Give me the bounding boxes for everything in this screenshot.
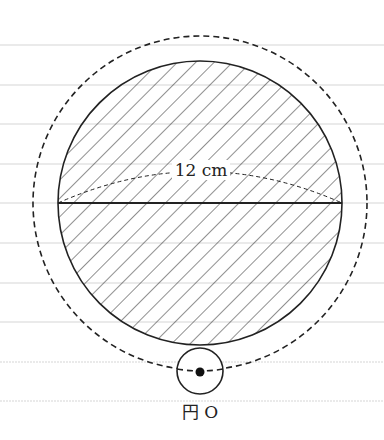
geometry-diagram: 12 cm 円 O — [0, 0, 384, 440]
center-point-icon — [196, 368, 205, 377]
hatched-circle — [50, 55, 350, 355]
dimension-label: 12 cm — [175, 160, 228, 180]
point-label: 円 O — [182, 402, 218, 422]
